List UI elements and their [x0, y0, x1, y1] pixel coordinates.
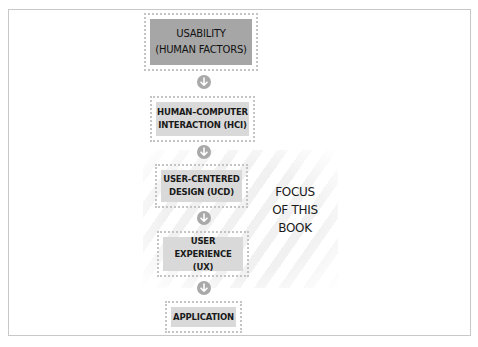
node-application-label: APPLICATION — [171, 307, 236, 327]
arrow-down-circle-icon — [197, 281, 211, 295]
arrow-down-circle-icon — [197, 75, 211, 89]
node-application: APPLICATION — [165, 301, 242, 333]
node-ucd-label: USER-CENTERED DESIGN (UCD) — [161, 170, 242, 202]
focus-of-this-book-label: FOCUS OF THIS BOOK — [262, 183, 328, 237]
node-usability: USABILITY (HUMAN FACTORS) — [144, 13, 258, 71]
node-hci-label: HUMAN–COMPUTER INTERACTION (HCI) — [156, 102, 249, 136]
arrow-down-circle-icon — [197, 145, 211, 159]
node-hci: HUMAN–COMPUTER INTERACTION (HCI) — [150, 96, 255, 142]
node-ucd: USER-CENTERED DESIGN (UCD) — [155, 164, 248, 208]
node-usability-label: USABILITY (HUMAN FACTORS) — [150, 19, 252, 65]
arrow-down-circle-icon — [197, 211, 211, 225]
node-ux-label: USER EXPERIENCE (UX) — [163, 237, 243, 271]
node-ux: USER EXPERIENCE (UX) — [157, 231, 249, 277]
